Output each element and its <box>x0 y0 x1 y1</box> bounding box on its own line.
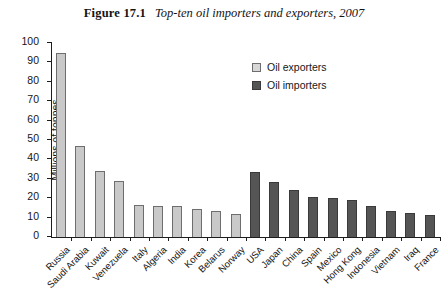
bar[interactable] <box>269 182 279 237</box>
bar-column[interactable] <box>401 43 420 237</box>
bar[interactable] <box>425 215 435 237</box>
y-tick-label: 40 <box>27 151 39 163</box>
bar[interactable] <box>386 211 396 237</box>
bar-column[interactable] <box>207 43 226 237</box>
x-tick <box>440 237 441 241</box>
bar-column[interactable] <box>52 43 71 237</box>
x-tick-label: China <box>279 244 305 270</box>
bar-column[interactable] <box>91 43 110 237</box>
x-tick <box>71 237 72 241</box>
x-tick <box>207 237 208 241</box>
bar[interactable] <box>347 200 357 237</box>
bar-column[interactable] <box>188 43 207 237</box>
figure-number: Figure 17.1 <box>84 6 146 20</box>
bar-column[interactable] <box>362 43 381 237</box>
y-tick-label: 20 <box>27 190 39 202</box>
bar-column[interactable] <box>343 43 362 237</box>
y-tick-label: 80 <box>27 74 39 86</box>
page-title: Figure 17.1Top-ten oil importers and exp… <box>0 6 448 21</box>
bar[interactable] <box>172 206 182 237</box>
x-tick <box>362 237 363 241</box>
bar[interactable] <box>211 211 221 237</box>
legend-label: Oil exporters <box>267 61 327 73</box>
bar[interactable] <box>153 206 163 237</box>
plot-area: Millions of tonnes 010203040506070809010… <box>52 43 440 237</box>
x-tick <box>285 237 286 241</box>
x-tick <box>227 237 228 241</box>
x-tick <box>421 237 422 241</box>
legend: Oil exportersOil importers <box>252 61 327 97</box>
legend-swatch-icon <box>252 63 261 72</box>
legend-label: Oil importers <box>267 79 327 91</box>
bar-column[interactable] <box>130 43 149 237</box>
y-tick-label: 10 <box>27 210 39 222</box>
x-tick <box>382 237 383 241</box>
bar[interactable] <box>75 146 85 237</box>
bar-column[interactable] <box>168 43 187 237</box>
x-tick <box>304 237 305 241</box>
x-tick <box>130 237 131 241</box>
x-tick <box>168 237 169 241</box>
figure-caption: Top-ten oil importers and exporters, 200… <box>155 6 364 20</box>
bar-column[interactable] <box>421 43 440 237</box>
y-tick-label: 0 <box>33 229 39 241</box>
x-tick <box>246 237 247 241</box>
y-tick-label: 70 <box>27 93 39 105</box>
bar[interactable] <box>114 181 124 237</box>
y-tick-label: 30 <box>27 171 39 183</box>
legend-item[interactable]: Oil exporters <box>252 61 327 73</box>
y-tick-label: 90 <box>27 54 39 66</box>
x-tick <box>265 237 266 241</box>
bar-column[interactable] <box>227 43 246 237</box>
bar[interactable] <box>231 214 241 237</box>
x-tick <box>110 237 111 241</box>
bar[interactable] <box>328 198 338 237</box>
bar[interactable] <box>134 205 144 237</box>
bar-column[interactable] <box>149 43 168 237</box>
x-tick <box>91 237 92 241</box>
bar[interactable] <box>289 190 299 237</box>
x-tick <box>149 237 150 241</box>
bar[interactable] <box>250 172 260 237</box>
y-tick-label: 60 <box>27 113 39 125</box>
bar[interactable] <box>192 209 202 237</box>
legend-item[interactable]: Oil importers <box>252 79 327 91</box>
x-tick <box>188 237 189 241</box>
figure-container: Figure 17.1Top-ten oil importers and exp… <box>0 0 448 308</box>
bar-column[interactable] <box>71 43 90 237</box>
x-tick <box>324 237 325 241</box>
bar[interactable] <box>308 197 318 237</box>
bar-column[interactable] <box>382 43 401 237</box>
y-tick-label: 100 <box>21 35 39 47</box>
legend-swatch-icon <box>252 81 261 90</box>
x-tick <box>343 237 344 241</box>
x-tick <box>401 237 402 241</box>
bar[interactable] <box>56 53 66 237</box>
bar[interactable] <box>95 171 105 237</box>
bar[interactable] <box>405 213 415 237</box>
bar[interactable] <box>366 206 376 237</box>
y-tick-label: 50 <box>27 132 39 144</box>
bar-column[interactable] <box>110 43 129 237</box>
